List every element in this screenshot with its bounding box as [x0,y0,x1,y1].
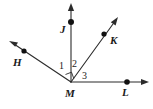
ray-ML: L [71,79,149,98]
point-K-dot [101,31,106,36]
ray-MJ-arrowhead [68,3,74,11]
vertex-M-label: M [64,87,76,99]
vertex-M: M [64,87,76,99]
angle-3-label: 3 [82,70,87,81]
ray-MK-arrowhead [111,17,118,25]
point-K-label: K [109,34,118,46]
point-L-label: L [121,86,129,98]
point-J-label: J [59,23,66,35]
geometry-figure: H J K L M 1 2 3 [0,0,153,109]
right-angle-marker-icon [66,72,74,78]
angle-2-label: 2 [72,58,77,69]
point-J-dot [68,19,74,25]
point-H-label: H [12,56,22,68]
ray-ML-arrowhead [141,79,149,85]
ray-MK: K [71,17,118,82]
figure-canvas: H J K L M 1 2 3 [0,0,153,109]
ray-MK-line [71,24,113,82]
angle-1-label: 1 [59,60,64,71]
point-L-dot [124,79,130,85]
point-H-dot [21,48,26,53]
